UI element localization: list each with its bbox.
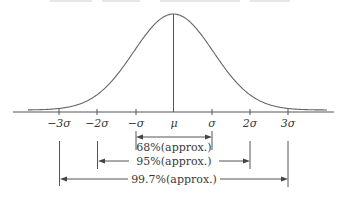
- arrow-left-icon: [136, 135, 143, 140]
- arrow-left-icon: [98, 159, 105, 164]
- normal-distribution-diagram: −3σ−2σ−σμσ2σ3σ 68%(approx.) 95%(approx.): [0, 0, 341, 198]
- tick-label: −σ: [128, 117, 145, 130]
- tick-label: 2σ: [242, 117, 258, 130]
- arrow-right-icon: [281, 177, 288, 182]
- arrow-right-icon: [243, 159, 250, 164]
- tick-label: 3σ: [281, 117, 296, 130]
- range-label-95: 95%(approx.): [136, 155, 211, 168]
- bell-curve: [28, 14, 327, 110]
- arrow-right-icon: [205, 135, 212, 140]
- arrow-left-icon: [60, 177, 67, 182]
- tick-label: σ: [208, 117, 216, 130]
- range-68: 68%(approx.): [136, 131, 212, 154]
- tick-label: −2σ: [85, 117, 109, 130]
- tick-label: μ: [170, 117, 177, 130]
- range-label-68: 68%(approx.): [136, 141, 211, 154]
- range-label-99-7: 99.7%(approx.): [131, 173, 217, 186]
- tick-label: −3σ: [47, 117, 71, 130]
